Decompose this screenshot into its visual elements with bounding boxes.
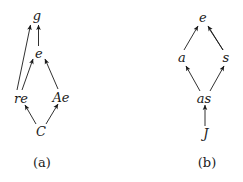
panel-caption-a: (a): [33, 156, 51, 169]
edge-C-to-re: [25, 105, 36, 124]
edge-as-to-s: [210, 66, 224, 91]
diagram-panel-b: e a s as J (b): [120, 0, 243, 182]
node-a: a: [178, 51, 186, 64]
node-s: s: [223, 51, 230, 64]
edge-as-to-a: [186, 66, 200, 91]
edge-C-to-Ae: [46, 104, 58, 124]
edge-re-to-e: [22, 59, 33, 90]
node-Ae: Ae: [52, 91, 69, 104]
edge-layer-b: [120, 0, 243, 182]
node-e-b: e: [199, 11, 207, 24]
edge-a-to-e: [184, 26, 198, 50]
node-C: C: [36, 125, 46, 138]
edge-Ae-to-e: [45, 59, 58, 89]
node-re: re: [14, 92, 28, 105]
node-g: g: [33, 9, 42, 22]
panel-caption-b: (b): [198, 156, 216, 169]
diagram-panel-a: g e re Ae C (a): [0, 0, 120, 182]
node-J: J: [203, 127, 208, 140]
node-e: e: [35, 47, 43, 60]
edge-re-to-g: [17, 25, 31, 90]
figure-canvas: g e re Ae C (a) e: [0, 0, 243, 182]
edge-crossing-mark-b: [210, 30, 223, 50]
node-as: as: [197, 92, 211, 105]
